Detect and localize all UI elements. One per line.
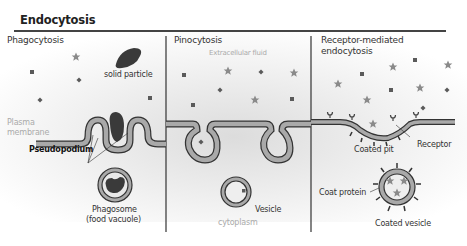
- label-pseudopodium: Pseudopodium: [29, 145, 93, 154]
- label-extracellular-fluid: Extracellular fluid: [209, 49, 267, 57]
- label-coated-vesicle: Coated vesicle: [375, 219, 431, 228]
- heading-receptor-mediated-2: endocytosis: [321, 46, 372, 56]
- vesicle: [221, 177, 251, 207]
- label-phagosome-1: Phagosome: [92, 205, 137, 214]
- label-plasma-membrane-1: Plasma: [7, 118, 35, 127]
- label-receptor: Receptor: [417, 140, 451, 149]
- heading-pinocytosis: Pinocytosis: [174, 35, 222, 45]
- label-vesicle: Vesicle: [255, 205, 281, 214]
- phagosome: [98, 168, 132, 202]
- label-phagosome-2: (food vacuole): [86, 215, 141, 224]
- label-plasma-membrane-2: membrane: [7, 128, 49, 137]
- label-coated-pit: Coated pit: [354, 145, 394, 154]
- heading-phagocytosis: Phagocytosis: [7, 35, 64, 45]
- label-solid-particle: solid particle: [104, 70, 153, 79]
- label-cytoplasm: cytoplasm: [218, 218, 258, 227]
- label-coat-protein: Coat protein: [319, 188, 366, 197]
- heading-receptor-mediated-1: Receptor-mediated: [321, 35, 403, 45]
